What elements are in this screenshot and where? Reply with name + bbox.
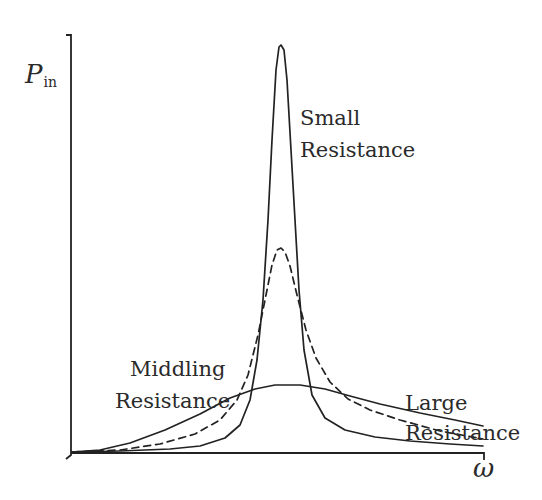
y-axis <box>66 35 71 459</box>
x-axis-label: ω <box>473 453 494 483</box>
x-axis <box>71 453 484 460</box>
y-axis-label: Pin <box>24 59 57 90</box>
resonance-diagram: Pin ω Small Resistance Middling Resistan… <box>0 0 542 500</box>
label-middling-resistance: Middling Resistance <box>115 357 232 413</box>
label-small-resistance: Small Resistance <box>300 106 415 162</box>
label-large-resistance: Large Resistance <box>405 391 520 445</box>
